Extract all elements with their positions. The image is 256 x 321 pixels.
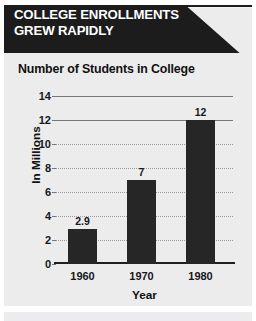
x-axis-category-label: 1960 bbox=[70, 270, 94, 282]
bar-value-label: 2.9 bbox=[75, 215, 90, 227]
y-axis-tick-label: 14 bbox=[39, 90, 51, 102]
x-axis-category-label: 1980 bbox=[188, 270, 212, 282]
y-axis-title: In Millions bbox=[29, 115, 43, 195]
y-axis-tick bbox=[52, 216, 56, 217]
bar: 71970 bbox=[127, 180, 156, 264]
banner-title: COLLEGE ENROLLMENTS GREW RAPIDLY bbox=[14, 7, 179, 39]
banner-title-line-2: GREW RAPIDLY bbox=[14, 23, 179, 39]
panel-bottom-strip bbox=[4, 312, 252, 321]
y-axis-tick bbox=[52, 192, 56, 193]
y-axis-tick bbox=[52, 240, 56, 241]
gridline bbox=[56, 96, 233, 97]
x-axis-title: Year bbox=[56, 288, 233, 302]
plot-area: 024681012142.9196071970121980 bbox=[56, 96, 233, 264]
y-axis-tick bbox=[52, 264, 56, 265]
y-axis-tick bbox=[52, 120, 56, 121]
y-axis-tick-label: 2 bbox=[45, 234, 51, 246]
y-axis-tick-label: 8 bbox=[45, 162, 51, 174]
y-axis-tick-label: 0 bbox=[45, 258, 51, 270]
bar-value-label: 12 bbox=[195, 106, 207, 118]
y-axis-tick-label: 6 bbox=[45, 186, 51, 198]
bar: 121980 bbox=[186, 120, 215, 264]
y-axis-tick-label: 4 bbox=[45, 210, 51, 222]
chart-figure: COLLEGE ENROLLMENTS GREW RAPIDLY Number … bbox=[0, 0, 256, 321]
chart-title: Number of Students in College bbox=[18, 62, 195, 76]
y-axis-tick bbox=[52, 168, 56, 169]
bar-value-label: 7 bbox=[139, 166, 145, 178]
banner-title-line-1: COLLEGE ENROLLMENTS bbox=[14, 7, 179, 23]
y-axis-tick bbox=[52, 144, 56, 145]
y-axis-tick bbox=[52, 96, 56, 97]
bar: 2.91960 bbox=[68, 229, 97, 264]
x-axis-category-label: 1970 bbox=[129, 270, 153, 282]
